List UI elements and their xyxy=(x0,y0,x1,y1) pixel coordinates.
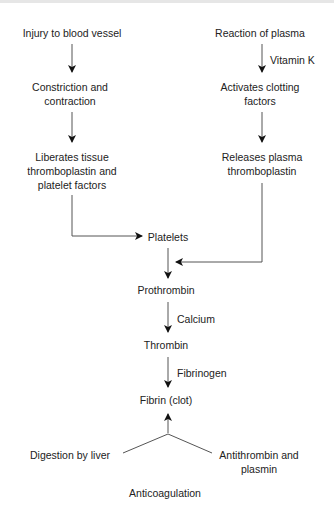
edge-label-fibrinogen: Fibrinogen xyxy=(177,366,227,380)
node-text-line: plasmin xyxy=(219,462,298,476)
node-text-line: Releases plasma xyxy=(222,150,303,164)
node-text-line: Liberates tissue xyxy=(27,150,116,164)
node-text-line: contraction xyxy=(32,94,108,108)
node-platelets: Platelets xyxy=(148,230,188,244)
node-liberates: Liberates tissue thromboplastin and plat… xyxy=(27,150,116,192)
node-activates-clotting: Activates clotting factors xyxy=(221,80,300,108)
edge-label-calcium: Calcium xyxy=(177,312,215,326)
node-releases-plasma: Releases plasma thromboplastin xyxy=(222,150,303,178)
node-thrombin: Thrombin xyxy=(144,338,188,352)
node-text-line: factors xyxy=(221,94,300,108)
node-digestion-liver: Digestion by liver xyxy=(30,448,110,462)
node-text-line: thromboplastin xyxy=(222,164,303,178)
node-anticoagulation: Anticoagulation xyxy=(129,486,201,500)
node-text-line: platelet factors xyxy=(27,178,116,192)
node-injury: Injury to blood vessel xyxy=(23,26,122,40)
node-reaction-plasma: Reaction of plasma xyxy=(215,26,305,40)
node-fibrin-clot: Fibrin (clot) xyxy=(140,393,193,407)
node-text-line: Activates clotting xyxy=(221,80,300,94)
node-prothrombin: Prothrombin xyxy=(137,283,194,297)
node-constriction: Constriction and contraction xyxy=(32,80,108,108)
node-text-line: thromboplastin and xyxy=(27,164,116,178)
node-antithrombin-plasmin: Antithrombin and plasmin xyxy=(219,448,298,476)
node-text-line: Constriction and xyxy=(32,80,108,94)
node-text-line: Antithrombin and xyxy=(219,448,298,462)
flow-arrows xyxy=(0,0,334,509)
edge-label-vitamin-k: Vitamin K xyxy=(270,53,315,67)
